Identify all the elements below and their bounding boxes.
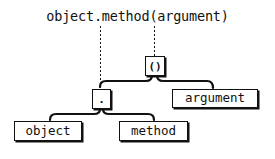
call-node-label: () — [148, 61, 161, 72]
method-node-label: method — [131, 125, 176, 138]
edge-access-method — [103, 109, 154, 120]
access-node-label: . — [98, 94, 105, 105]
edge-call-argument — [157, 75, 213, 88]
object-node-label: object — [25, 125, 70, 138]
method-node: method — [119, 121, 188, 141]
argument-node-label: argument — [185, 92, 245, 105]
edge-call-access — [100, 75, 152, 87]
access-node: . — [92, 89, 111, 109]
call-node: () — [145, 56, 165, 76]
argument-node: argument — [172, 89, 258, 108]
object-node: object — [14, 121, 82, 141]
edge-access-object — [50, 109, 100, 120]
